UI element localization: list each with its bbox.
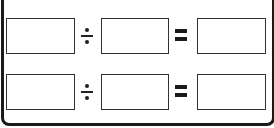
quotient-box[interactable] (197, 74, 266, 110)
divisor-value (102, 19, 103, 20)
dividend-value (7, 75, 8, 76)
divide-sign-icon: ÷ (81, 28, 93, 44)
divisor-box[interactable] (101, 18, 169, 54)
equation-row-2: ÷ = (0, 74, 274, 111)
quotient-value (198, 19, 199, 20)
dividend-box[interactable] (6, 74, 75, 110)
quotient-value (198, 75, 199, 76)
divide-sign-icon: ÷ (81, 84, 93, 100)
equation-row-1: ÷ = (0, 18, 274, 55)
equals-sign-icon: = (175, 29, 187, 42)
quotient-box[interactable] (197, 18, 266, 54)
divisor-value (102, 75, 103, 76)
dividend-box[interactable] (6, 18, 75, 54)
dividend-value (7, 19, 8, 20)
equals-sign-icon: = (175, 85, 187, 98)
divisor-box[interactable] (101, 74, 169, 110)
